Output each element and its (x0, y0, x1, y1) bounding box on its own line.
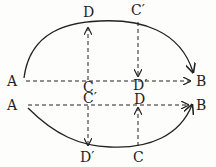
label-d-top: D (83, 5, 94, 19)
label-c-prime-mid-lower: C′ (83, 91, 97, 105)
label-c-bottom: C (133, 150, 144, 164)
lower-arc-path (28, 105, 192, 147)
label-d-prime-mid-upper: D′ (133, 78, 147, 92)
label-a-top: A (7, 74, 17, 88)
diagram: A B A B D C′ C D′ C′ D D′ C (0, 0, 216, 167)
label-b-top: B (196, 74, 206, 88)
label-c-prime-top: C′ (131, 3, 145, 17)
diagram-lines (0, 0, 216, 167)
label-b-bottom: B (196, 98, 206, 112)
label-d-mid-lower: D (134, 92, 145, 106)
label-a-bottom: A (7, 98, 17, 112)
label-d-prime-bottom: D′ (80, 150, 94, 164)
upper-arc-path (24, 21, 193, 78)
